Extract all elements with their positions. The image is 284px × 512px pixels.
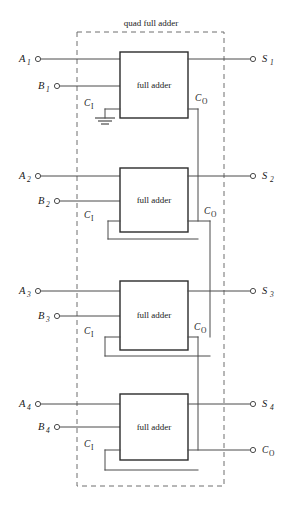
- label-b3-sub: 3: [45, 315, 50, 324]
- terminal-a4[interactable]: [35, 401, 40, 406]
- label-b4-sub: 4: [46, 426, 50, 435]
- label-a2-sub: 2: [27, 175, 31, 184]
- terminal-s2[interactable]: [250, 173, 255, 178]
- terminal-a1[interactable]: [35, 56, 40, 61]
- label-a3-letter: A: [18, 285, 26, 296]
- terminal-a2[interactable]: [35, 173, 40, 178]
- label-a4-letter: A: [18, 398, 26, 409]
- terminal-s4[interactable]: [250, 401, 255, 406]
- label-ci4-letter: C: [84, 439, 91, 449]
- label-ci1-letter: C: [84, 98, 91, 108]
- label-s4-sub: 4: [270, 403, 274, 412]
- label-b2-sub: 2: [46, 200, 50, 209]
- label-a2-letter: A: [18, 170, 26, 181]
- quad-full-adder-diagram: quad full adder A 1 B 1 full adder S 1 C…: [0, 0, 284, 512]
- label-b2-letter: B: [38, 195, 45, 206]
- diagram-title: quad full adder: [124, 18, 178, 28]
- label-co3-letter: C: [194, 322, 201, 332]
- label-b3-letter: B: [38, 310, 45, 321]
- label-a1-sub: 1: [27, 58, 31, 67]
- label-s4-letter: S: [262, 398, 268, 409]
- label-final-co-sub: O: [269, 449, 275, 458]
- label-ci2-letter: C: [84, 210, 91, 220]
- label-s1-letter: S: [262, 53, 268, 64]
- label-s1-sub: 1: [270, 58, 274, 67]
- label-s2-sub: 2: [270, 175, 274, 184]
- terminal-s1[interactable]: [250, 56, 255, 61]
- terminal-b1[interactable]: [54, 83, 59, 88]
- label-ci4-sub: I: [91, 443, 94, 452]
- full-adder-block-3-label: full adder: [137, 310, 172, 320]
- label-b1-letter: B: [38, 80, 45, 91]
- terminal-b4[interactable]: [54, 424, 59, 429]
- label-final-co-letter: C: [262, 445, 269, 455]
- terminal-final-co[interactable]: [250, 447, 255, 452]
- full-adder-block-2-label: full adder: [137, 195, 172, 205]
- label-a1-letter: A: [18, 53, 26, 64]
- label-a4-sub: 4: [27, 403, 31, 412]
- label-b4-letter: B: [38, 421, 45, 432]
- circuit-schematic: quad full adder A 1 B 1 full adder S 1 C…: [0, 0, 284, 512]
- label-co1-sub: O: [202, 97, 208, 106]
- terminal-s3[interactable]: [250, 288, 255, 293]
- full-adder-block-1-label: full adder: [137, 80, 172, 90]
- terminal-b2[interactable]: [54, 198, 59, 203]
- label-s3-letter: S: [262, 285, 268, 296]
- label-ci1-sub: I: [91, 102, 94, 111]
- terminal-a3[interactable]: [35, 288, 40, 293]
- full-adder-block-4-label: full adder: [137, 422, 172, 432]
- label-a3-sub: 3: [26, 290, 31, 299]
- label-co2-letter: C: [204, 206, 211, 216]
- label-co1-letter: C: [195, 93, 202, 103]
- label-co2-sub: O: [211, 210, 217, 219]
- label-ci3-letter: C: [84, 326, 91, 336]
- label-ci3-sub: I: [91, 330, 94, 339]
- terminal-b3[interactable]: [54, 313, 59, 318]
- label-s2-letter: S: [262, 170, 268, 181]
- label-ci2-sub: I: [91, 214, 94, 223]
- label-s3-sub: 3: [269, 290, 274, 299]
- label-co3-sub: O: [201, 326, 207, 335]
- label-b1-sub: 1: [46, 85, 50, 94]
